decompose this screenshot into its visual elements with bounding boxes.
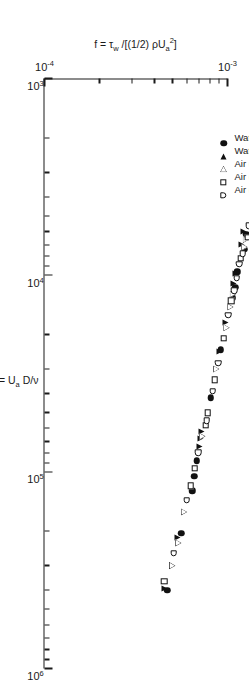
data-point <box>191 465 197 471</box>
legend-label: Air (Ref. 4) <box>234 183 249 194</box>
rotated-figure-container: 103104105106 10-410-3 Re = Ua D/ν f = τw… <box>0 0 249 685</box>
x-tick <box>44 265 49 266</box>
x-tick <box>44 637 49 638</box>
y-tick <box>154 78 155 83</box>
legend-item: Air (Ref. 4) <box>217 182 249 195</box>
data-point <box>169 561 176 569</box>
x-tick <box>44 608 49 609</box>
x-tick <box>44 368 49 369</box>
data-point <box>187 482 193 488</box>
data-point <box>183 497 189 503</box>
data-point <box>207 394 214 401</box>
legend-item: Air (Ref. 2) <box>217 156 249 169</box>
legend: Water (Ref. 1)Water (Ref. 2)Air (Ref. 2)… <box>217 130 249 195</box>
x-tick <box>44 137 49 138</box>
data-point <box>211 376 217 382</box>
figure-page: 103104105106 10-410-3 Re = Ua D/ν f = τw… <box>0 0 249 685</box>
y-axis-title: f = τw /[(1/2) ρUa2] <box>94 36 177 53</box>
x-tick <box>44 196 49 197</box>
legend-label: Air (Ref. 3) <box>234 170 249 181</box>
data-point <box>225 312 231 318</box>
x-tick <box>44 333 49 334</box>
x-tick <box>44 530 49 531</box>
x-tick <box>44 230 49 231</box>
y-tick <box>209 78 210 83</box>
x-axis-spine <box>43 78 44 668</box>
x-tick <box>44 462 49 463</box>
x-tick-label: 106 <box>27 668 43 682</box>
x-tick <box>44 658 49 659</box>
legend-item: Water (Ref. 2) <box>217 143 249 156</box>
legend-label: Air (Ref. 2) <box>234 157 249 168</box>
x-axis-title: Re = Ua D/ν <box>0 373 38 388</box>
data-point <box>174 534 180 540</box>
legend-label: Water (Ref. 1) <box>234 131 249 142</box>
x-tick <box>44 624 49 625</box>
data-point <box>194 449 200 455</box>
y-tick <box>131 78 132 83</box>
marker-open-dsquare <box>220 191 226 197</box>
data-point <box>215 359 221 365</box>
x-tick <box>44 244 49 245</box>
legend-item: Water (Ref. 1) <box>217 130 249 143</box>
data-point <box>161 585 167 591</box>
y-tick <box>198 78 199 83</box>
data-point <box>204 409 210 415</box>
x-tick <box>44 589 49 590</box>
data-point <box>160 578 166 584</box>
y-tick <box>218 78 219 83</box>
x-tick <box>44 452 49 453</box>
data-point <box>245 222 249 228</box>
legend-marker <box>217 189 229 201</box>
x-tick <box>44 171 49 172</box>
x-tick <box>44 274 52 275</box>
x-tick <box>44 255 49 256</box>
data-point <box>233 275 239 281</box>
plot-area: 103104105106 10-410-3 Re = Ua D/ν f = τw… <box>0 0 249 685</box>
x-tick <box>44 440 49 441</box>
data-point <box>239 250 245 256</box>
y-tick-label: 10-4 <box>35 58 54 72</box>
y-tick <box>98 78 99 83</box>
data-point <box>170 550 176 556</box>
data-point <box>228 297 234 303</box>
data-point <box>231 287 237 293</box>
y-tick <box>226 78 227 86</box>
data-point <box>203 417 209 423</box>
x-tick <box>44 471 52 472</box>
legend-item: Air (Ref. 3) <box>217 169 249 182</box>
x-tick <box>44 667 52 668</box>
x-tick-label: 103 <box>27 78 43 92</box>
x-tick <box>44 215 49 216</box>
x-tick <box>44 411 49 412</box>
y-tick-label: 10-3 <box>218 58 237 72</box>
x-tick <box>44 564 49 565</box>
x-tick <box>44 427 49 428</box>
x-tick <box>44 648 49 649</box>
x-tick <box>44 392 49 393</box>
y-tick <box>171 78 172 83</box>
data-point <box>191 472 198 479</box>
data-point <box>236 261 242 267</box>
data-point <box>216 348 222 354</box>
data-point <box>209 388 215 394</box>
data-point <box>196 443 202 449</box>
data-point <box>220 335 226 341</box>
x-tick-label: 105 <box>27 471 43 485</box>
legend-label: Water (Ref. 2) <box>234 144 249 155</box>
data-point <box>244 233 249 239</box>
data-point <box>193 457 200 464</box>
data-point <box>180 508 187 516</box>
x-tick-label: 104 <box>27 275 43 289</box>
y-tick <box>186 78 187 83</box>
